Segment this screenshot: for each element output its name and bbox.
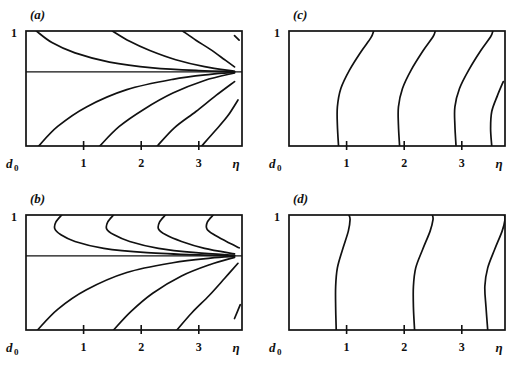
contour-figure: (a)1123d0η(b)1123d0η(c)1123d0η(d)1123d0η (0, 0, 510, 369)
x-axis-tick-label: 3 (196, 340, 202, 354)
contour-curve (413, 215, 433, 330)
x-axis-origin-subscript: 0 (277, 347, 282, 357)
x-axis-origin-subscript: 0 (14, 347, 19, 357)
contour-curve (455, 31, 493, 146)
x-axis-tick-label: 2 (401, 340, 407, 354)
x-axis-tick-label: 3 (459, 156, 465, 170)
panel-label: (c) (293, 7, 307, 22)
x-axis-tick-label: 2 (138, 156, 144, 170)
contour-curve (491, 82, 504, 146)
panel-label: (b) (30, 191, 45, 206)
x-axis-origin-subscript: 0 (277, 163, 282, 173)
y-axis-top-label: 1 (11, 210, 17, 224)
x-axis-origin-label: d (6, 340, 13, 355)
x-axis-origin-label: d (6, 156, 13, 171)
x-axis-tick-label: 1 (81, 340, 87, 354)
x-axis-label: η (495, 340, 502, 355)
panel-d: (d)1123d0η (269, 191, 505, 357)
contour-curve (114, 257, 235, 330)
x-axis-label: η (232, 156, 239, 171)
panel-c: (c)1123d0η (269, 7, 505, 173)
contour-curve (235, 36, 240, 41)
contour-curve (39, 72, 235, 146)
x-axis-label: η (232, 340, 239, 355)
y-axis-top-label: 1 (274, 26, 280, 40)
contour-curve (336, 215, 351, 330)
plot-frame (289, 215, 505, 330)
x-axis-tick-label: 2 (138, 340, 144, 354)
contour-curve (337, 31, 374, 146)
contour-curve (158, 215, 234, 254)
x-axis-tick-label: 3 (459, 340, 465, 354)
contour-curve (235, 305, 241, 319)
plot-frame (289, 31, 505, 146)
contour-curve (202, 100, 238, 146)
x-axis-label: η (495, 156, 502, 171)
contour-curve (485, 215, 505, 330)
contour-curve (36, 31, 234, 71)
x-axis-tick-label: 3 (196, 156, 202, 170)
panel-a: (a)1123d0η (6, 7, 242, 173)
x-axis-origin-subscript: 0 (14, 163, 19, 173)
contour-curve (183, 31, 235, 67)
y-axis-top-label: 1 (11, 26, 17, 40)
x-axis-tick-label: 1 (344, 156, 350, 170)
panel-label: (a) (30, 7, 45, 22)
panel-label: (d) (293, 191, 308, 206)
x-axis-origin-label: d (269, 340, 276, 355)
contour-curve (157, 82, 234, 146)
x-axis-origin-label: d (269, 156, 276, 171)
contour-curve (38, 256, 235, 330)
contour-curve (398, 31, 435, 146)
x-axis-tick-label: 1 (344, 340, 350, 354)
contour-curve (206, 215, 239, 248)
panel-b: (b)1123d0η (6, 191, 242, 357)
x-axis-tick-label: 1 (81, 156, 87, 170)
y-axis-top-label: 1 (274, 210, 280, 224)
x-axis-tick-label: 2 (401, 156, 407, 170)
